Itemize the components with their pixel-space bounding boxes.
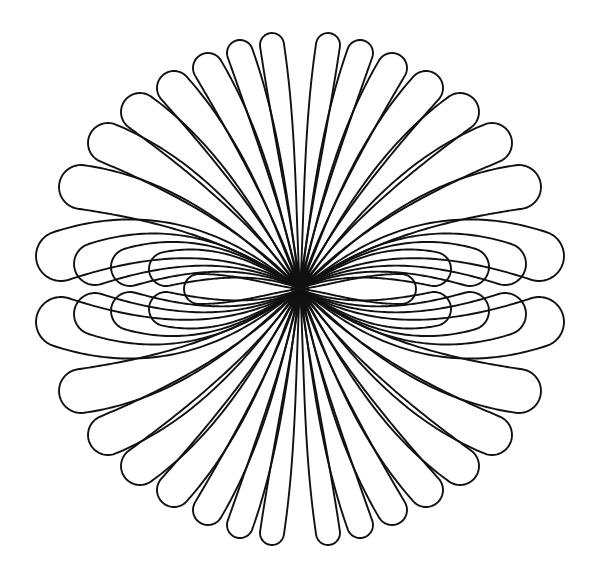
petal-rosette-drawing — [0, 0, 599, 575]
